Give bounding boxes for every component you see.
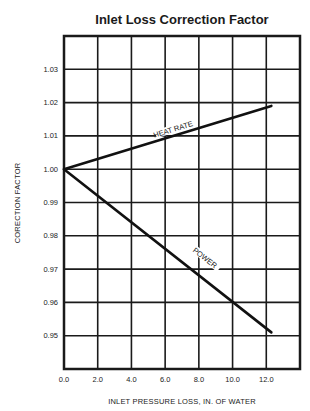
x-tick-label: 4.0 xyxy=(126,375,136,384)
x-axis-label: INLET PRESSURE LOSS, IN. OF WATER xyxy=(108,397,256,406)
y-tick-label: 0.96 xyxy=(43,298,58,307)
y-tick-label: 1.02 xyxy=(43,98,58,107)
chart-title: Inlet Loss Correction Factor xyxy=(95,12,268,27)
y-axis-label: CORECTION FACTOR xyxy=(13,162,22,243)
series-label-power: POWER xyxy=(191,246,219,271)
series-labels: HEAT RATEPOWER xyxy=(152,119,221,272)
y-tick-label: 0.97 xyxy=(43,265,58,274)
y-tick-label: 0.95 xyxy=(43,331,58,340)
x-tick-label: 2.0 xyxy=(92,375,102,384)
y-tick-label: 1.01 xyxy=(43,131,58,140)
x-tick-label: 12.0 xyxy=(259,375,274,384)
x-tick-label: 8.0 xyxy=(194,375,204,384)
y-tick-labels: 0.950.960.970.980.991.001.011.021.03 xyxy=(43,65,58,340)
grid-lines xyxy=(64,36,300,369)
y-tick-label: 1.03 xyxy=(43,65,58,74)
x-tick-label: 10.0 xyxy=(225,375,240,384)
x-tick-label: 6.0 xyxy=(160,375,170,384)
y-tick-label: 0.99 xyxy=(43,198,58,207)
y-tick-label: 0.98 xyxy=(43,231,58,240)
x-tick-label: 0.0 xyxy=(59,375,69,384)
y-tick-label: 1.00 xyxy=(43,165,58,174)
series-line-heat-rate xyxy=(64,106,271,169)
inlet-loss-chart: Inlet Loss Correction Factor 0.950.960.9… xyxy=(0,0,310,411)
x-tick-labels: 0.02.04.06.08.010.012.0 xyxy=(59,375,274,384)
series-line-power xyxy=(64,169,271,332)
data-series xyxy=(64,106,271,332)
